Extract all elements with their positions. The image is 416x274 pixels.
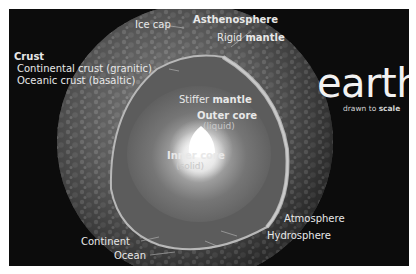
title-earth: earth xyxy=(317,63,409,103)
earth-cutaway-illustration xyxy=(9,9,409,266)
label-continent: Continent xyxy=(81,237,130,247)
label-crust: Crust xyxy=(14,52,44,62)
label-stiffer-emphasis: mantle xyxy=(212,94,251,105)
label-rigid-prefix: Rigid xyxy=(217,32,245,43)
label-stiffer-mantle: Stiffer mantle xyxy=(179,95,252,105)
subtitle-drawn-to-scale: drawn to scale xyxy=(343,104,400,113)
label-atmosphere: Atmosphere xyxy=(284,214,345,224)
label-rigid-mantle: Rigid mantle xyxy=(217,33,285,43)
label-rigid-emphasis: mantle xyxy=(245,32,284,43)
label-outer-core: Outer core xyxy=(197,111,257,121)
label-ice-cap: Ice cap xyxy=(135,20,171,30)
subtitle-prefix: drawn to xyxy=(343,104,379,113)
diagram-frame: Ice cap Asthenosphere Rigid mantle Crust… xyxy=(9,9,409,266)
label-inner-core-state: (solid) xyxy=(176,162,204,171)
label-stiffer-prefix: Stiffer xyxy=(179,94,212,105)
label-continental-crust: Continental crust (granitic) xyxy=(17,64,152,74)
label-inner-core: Inner core xyxy=(167,151,225,161)
label-ocean: Ocean xyxy=(114,251,146,261)
subtitle-emphasis: scale xyxy=(379,104,401,113)
label-asthenosphere: Asthenosphere xyxy=(193,15,278,25)
label-outer-core-state: (liquid) xyxy=(203,122,235,131)
label-oceanic-crust: Oceanic crust (basaltic) xyxy=(17,76,135,86)
label-hydrosphere: Hydrosphere xyxy=(267,231,331,241)
